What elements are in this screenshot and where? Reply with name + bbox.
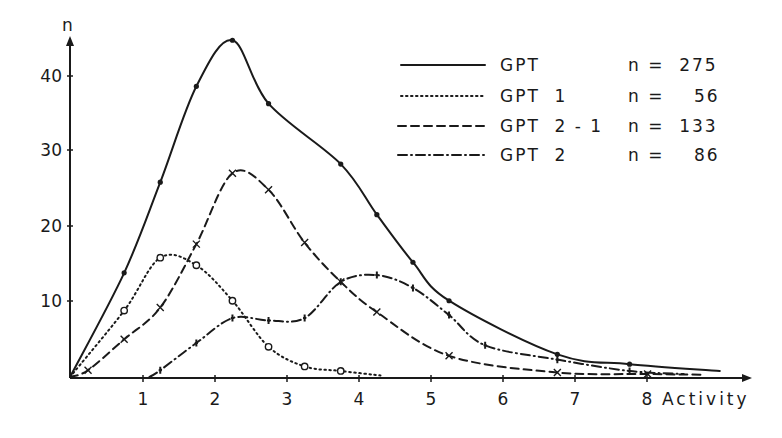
x-marker-icon (265, 186, 272, 193)
circle-marker-icon (338, 368, 344, 374)
chart-canvas: n 10 20 30 40 1 2 3 4 5 6 7 8 Activity G… (0, 0, 782, 438)
legend-label: GPT 2 - 1 (500, 116, 603, 136)
plus-marker-icon (231, 315, 234, 322)
x-tick-label: 6 (498, 389, 509, 409)
dot-marker-icon (410, 260, 415, 265)
x-tick-label: 4 (354, 389, 365, 409)
x-marker-icon (373, 309, 380, 316)
x-tick-label: 3 (282, 389, 293, 409)
legend-count: n = 133 (628, 116, 718, 136)
legend: GPT GPT 1 GPT 2 - 1 GPT 2 n = 275 n = 56… (398, 55, 720, 165)
dot-marker-icon (374, 212, 379, 217)
x-tick-label: 2 (210, 389, 221, 409)
legend-label: GPT 1 (500, 86, 567, 106)
legend-count: n = 56 (628, 86, 720, 106)
circle-marker-icon (301, 363, 307, 369)
plus-marker-icon (303, 315, 306, 322)
x-marker-icon (121, 336, 128, 343)
legend-count: n = 86 (628, 145, 720, 165)
plus-marker-icon (159, 367, 162, 374)
plus-marker-icon (411, 284, 414, 291)
series-line-gpt-1 (70, 255, 381, 377)
plus-marker-icon (267, 317, 270, 324)
series-curves (70, 40, 720, 377)
series-line-gpt-2 (149, 275, 683, 377)
circle-marker-icon (265, 344, 271, 350)
x-tick-label: 1 (138, 389, 149, 409)
dot-marker-icon (446, 298, 451, 303)
circle-marker-icon (157, 255, 163, 261)
dot-marker-icon (158, 180, 163, 185)
legend-count: n = 275 (628, 55, 718, 75)
y-tick-label: 20 (40, 216, 62, 236)
legend-label: GPT (500, 55, 540, 75)
y-tick-label: 40 (40, 66, 62, 86)
circle-marker-icon (121, 307, 127, 313)
legend-label: GPT 2 (500, 145, 567, 165)
plus-marker-icon (339, 278, 342, 285)
circle-marker-icon (193, 262, 199, 268)
x-marker-icon (85, 367, 92, 374)
y-tick-label: 10 (40, 291, 62, 311)
dot-marker-icon (338, 161, 343, 166)
plus-marker-icon (556, 356, 559, 363)
x-tick-label: 7 (570, 389, 581, 409)
plus-marker-icon (375, 272, 378, 279)
x-axis-label: Activity (662, 389, 750, 409)
x-tick-label: 5 (426, 389, 437, 409)
plus-marker-icon (195, 340, 198, 347)
y-axis-label: n (62, 15, 73, 35)
x-marker-icon (193, 241, 200, 248)
dot-marker-icon (230, 38, 235, 43)
y-tick-label: 30 (40, 140, 62, 160)
x-axis-arrow-icon (742, 374, 752, 382)
circle-marker-icon (229, 298, 235, 304)
dot-marker-icon (122, 270, 127, 275)
series-line-gpt (70, 40, 720, 377)
y-axis-arrow-icon (66, 36, 74, 46)
x-marker-icon (301, 239, 308, 246)
x-marker-icon (157, 304, 164, 311)
dot-marker-icon (194, 84, 199, 89)
plus-marker-icon (447, 312, 450, 319)
x-tick-label: 8 (642, 389, 653, 409)
x-marker-icon (229, 170, 236, 177)
plus-marker-icon (484, 342, 487, 349)
dot-marker-icon (266, 101, 271, 106)
series-line-gpt-2-1 (70, 170, 702, 377)
dot-marker-icon (627, 362, 632, 367)
